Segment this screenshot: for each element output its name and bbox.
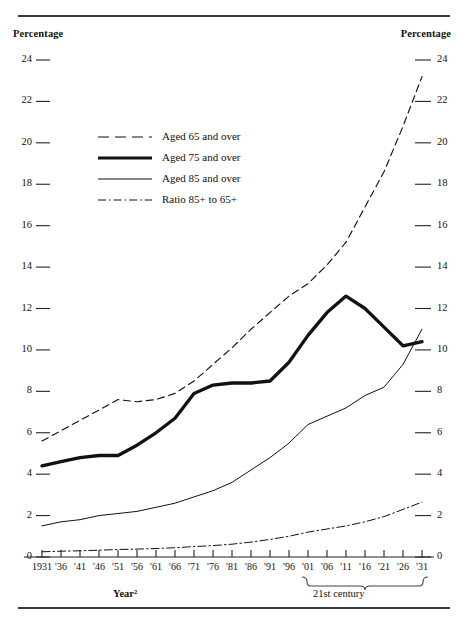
legend-swatch-ratio-85-to-65 [96,191,154,209]
chart-legend: Aged 65 and overAged 75 and overAged 85 … [96,128,306,212]
x-axis-title: Year² [113,588,137,599]
legend-label-aged-65-and-over: Aged 65 and over [162,130,241,142]
century-bracket-label: 21st century [313,588,365,599]
legend-item-aged-65-and-over: Aged 65 and over [96,128,306,149]
legend-item-aged-85-and-over: Aged 85 and over [96,170,306,191]
legend-label-ratio-85-to-65: Ratio 85+ to 65+ [162,193,237,205]
series-line-aged-85-and-over [42,329,422,526]
chart-figure: Percentage Percentage 024681012141618202… [0,0,467,624]
series-line-ratio-85-to-65 [42,502,422,552]
legend-label-aged-75-and-over: Aged 75 and over [162,151,241,163]
legend-label-aged-85-and-over: Aged 85 and over [162,172,241,184]
series-line-aged-75-and-over [42,296,422,466]
legend-item-ratio-85-to-65: Ratio 85+ to 65+ [96,191,306,212]
plot-area [0,0,467,624]
legend-swatch-aged-85-and-over [96,170,154,188]
legend-swatch-aged-65-and-over [96,128,154,146]
legend-swatch-aged-75-and-over [96,149,154,167]
legend-item-aged-75-and-over: Aged 75 and over [96,149,306,170]
